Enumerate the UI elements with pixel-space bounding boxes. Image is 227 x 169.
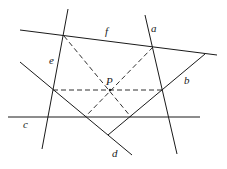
label-b: b xyxy=(184,74,190,86)
label-d: d xyxy=(112,147,118,159)
point-p-marker xyxy=(109,89,111,91)
dashed-diagonal-ef-bc xyxy=(64,36,131,117)
geometry-diagram: a b c d e f P xyxy=(0,0,227,169)
line-e xyxy=(42,9,68,149)
label-p: P xyxy=(105,75,113,87)
label-e: e xyxy=(49,54,54,66)
label-f: f xyxy=(105,25,110,37)
line-f xyxy=(20,30,217,55)
line-d xyxy=(20,62,132,155)
line-a xyxy=(145,15,177,154)
label-c: c xyxy=(23,118,28,130)
label-a: a xyxy=(151,22,157,34)
